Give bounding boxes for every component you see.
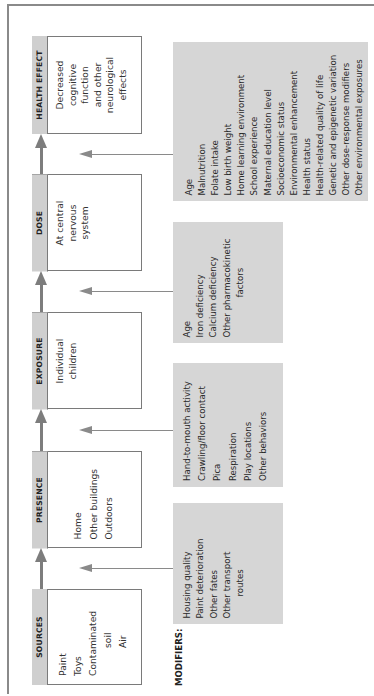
up-arrow-icon <box>35 548 47 562</box>
modifier-item: Calcium deficiency <box>207 228 220 337</box>
flow-connector <box>40 560 43 589</box>
modifier-item: Maternal education level <box>261 48 274 195</box>
up-arrow-icon <box>35 134 47 148</box>
modifier-connector <box>90 430 173 431</box>
stage-presence: PRESENCE Home Other buildings Outdoors <box>32 451 142 548</box>
modifier-item: Genetic and epigenetic variation <box>326 48 339 195</box>
diagram-frame-top <box>8 4 374 6</box>
up-arrow-icon <box>35 271 47 285</box>
modifier-item: Other transport <box>221 509 234 618</box>
modifier-box-dose: Age Iron deficiency Calcium deficiency O… <box>173 222 283 343</box>
modifier-item: Environmental enhancement <box>287 48 300 195</box>
stage-items: Decreased cognitive function and other n… <box>48 36 142 134</box>
stage-title: PRESENCE <box>32 451 48 548</box>
modifier-item: Other environmental exposures <box>352 48 365 195</box>
modifier-item: Iron deficiency <box>194 228 207 337</box>
stage-item: soil <box>100 597 115 676</box>
diagram-frame-left <box>7 4 9 694</box>
modifier-item: Low birth weight <box>221 48 234 195</box>
modifier-connector <box>90 154 173 155</box>
stage-item: Individual <box>54 320 67 401</box>
left-arrow-icon <box>79 150 92 158</box>
stage-health-effect: HEALTH EFFECT Decreased cognitive functi… <box>32 36 142 134</box>
stage-items: At central nervous system <box>48 174 142 271</box>
modifier-item: Age <box>182 48 195 195</box>
stage-item: system <box>79 182 92 263</box>
modifier-item: Health status <box>300 48 313 195</box>
stage-item: Paint <box>55 597 70 676</box>
stage-item: nervous <box>67 182 80 263</box>
modifier-item: Play locations <box>241 369 256 481</box>
stage-item: Decreased <box>54 44 67 126</box>
stage-items: Home Other buildings Outdoors <box>48 451 142 548</box>
left-arrow-icon <box>79 564 92 572</box>
modifier-item: School experience <box>247 48 260 195</box>
modifier-item: Socioeconomic status <box>274 48 287 195</box>
modifier-item: Other pharmacokinetic <box>221 228 234 337</box>
modifier-box-health-effect: Age Malnutrition Folate intake Low birth… <box>173 42 368 201</box>
modifier-item: Health-related quality of life <box>313 48 326 195</box>
modifiers-label: MODIFIERS: <box>174 630 186 686</box>
modifier-box-exposure: Hand-to-mouth activity Crawling/floor co… <box>173 363 283 487</box>
modifier-item: Malnutrition <box>195 48 208 195</box>
stage-item: children <box>67 320 80 401</box>
modifier-item: factors <box>234 228 247 337</box>
flow-connector <box>40 421 43 451</box>
stage-item: Outdoors <box>101 459 117 539</box>
modifier-item: Housing quality <box>181 509 194 618</box>
up-arrow-icon <box>35 409 47 423</box>
modifier-item: routes <box>234 509 247 618</box>
stage-item: neurological <box>104 44 117 126</box>
modifier-item: Other behaviors <box>256 369 271 481</box>
stage-dose: DOSE At central nervous system <box>32 174 142 271</box>
stage-items: Paint Toys Contaminated soil Air <box>48 589 142 685</box>
modifier-item: Folate intake <box>208 48 221 195</box>
stage-item: function <box>79 44 92 126</box>
stage-item: Toys <box>70 597 85 676</box>
stage-title: DOSE <box>32 174 48 271</box>
modifier-item: Home learning environment <box>234 48 247 195</box>
stage-item: Air <box>115 597 130 676</box>
stage-item: cognitive <box>67 44 80 126</box>
stage-item: and other <box>92 44 105 126</box>
stage-title: SOURCES <box>32 589 48 685</box>
left-arrow-icon <box>79 426 92 434</box>
modifier-box-presence: Housing quality Paint deterioration Othe… <box>173 503 283 624</box>
stage-item: At central <box>54 182 67 263</box>
stage-title: HEALTH EFFECT <box>32 36 48 134</box>
flow-connector <box>40 283 43 312</box>
modifier-item: Hand-to-mouth activity <box>180 369 195 481</box>
modifier-item: Other fates <box>208 509 221 618</box>
stage-item: Contaminated <box>85 597 100 676</box>
modifier-item: Pica <box>210 369 225 481</box>
stage-items: Individual children <box>48 312 142 409</box>
modifier-item: Paint deterioration <box>194 509 207 618</box>
flow-connector <box>40 146 43 174</box>
stage-item: effects <box>117 44 130 126</box>
modifier-connector <box>90 291 173 292</box>
stage-sources: SOURCES Paint Toys Contaminated soil Air <box>32 589 142 685</box>
modifier-item: Crawling/floor contact <box>195 369 210 481</box>
modifier-item: Age <box>181 228 194 337</box>
left-arrow-icon <box>79 287 92 295</box>
stage-exposure: EXPOSURE Individual children <box>32 312 142 409</box>
stage-item: Other buildings <box>86 459 102 539</box>
stage-title: EXPOSURE <box>32 312 48 409</box>
modifier-item: Respiration <box>226 369 241 481</box>
modifier-connector <box>90 568 173 569</box>
stage-item: Home <box>70 459 86 539</box>
modifier-item: Other dose-response modifiers <box>339 48 352 195</box>
